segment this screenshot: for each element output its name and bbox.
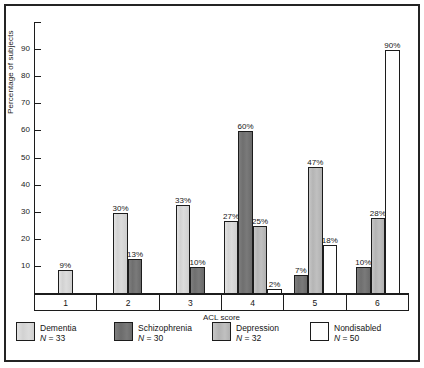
bar-value-label: 33% — [175, 196, 191, 205]
legend-text-dementia: DementiaN = 33 — [40, 322, 76, 343]
legend-swatch-dementia — [16, 322, 35, 341]
y-tick-40 — [34, 185, 41, 186]
bar-schizophrenia-cat-5: 7% — [294, 275, 309, 294]
y-tick-20 — [34, 239, 41, 240]
legend-label-dementia: Dementia — [40, 323, 76, 333]
chart-figure: Percentage of subjects 10203040506070809… — [0, 0, 424, 368]
bar-dementia-cat-2: 30% — [113, 213, 128, 294]
y-tick-50 — [34, 158, 41, 159]
bar-dementia-cat-3: 33% — [176, 205, 191, 294]
bar-schizophrenia-cat-2: 13% — [128, 259, 143, 294]
x-axis-category-row: 123456 — [34, 294, 409, 311]
y-tick-label-20: 20 — [12, 235, 30, 243]
y-axis-top-cap — [34, 22, 41, 23]
bar-value-label: 7% — [295, 266, 307, 275]
legend-label-depression: Depression — [236, 323, 279, 333]
legend-swatch-depression — [212, 322, 231, 341]
y-tick-label-10: 10 — [12, 262, 30, 270]
bar-value-label: 10% — [189, 258, 205, 267]
bar-value-label: 13% — [127, 250, 143, 259]
x-category-2: 2 — [97, 295, 159, 310]
legend-text-schizophrenia: SchizophreniaN = 30 — [138, 322, 192, 343]
legend-n-dementia: N = 33 — [40, 333, 76, 343]
bar-dementia-cat-1: 9% — [58, 270, 73, 294]
bar-schizophrenia-cat-3: 10% — [190, 267, 205, 294]
legend-text-nondisabled: NondisabledN = 50 — [334, 322, 381, 343]
legend-label-schizophrenia: Schizophrenia — [138, 323, 192, 333]
bar-value-label: 47% — [307, 158, 323, 167]
bar-value-label: 30% — [112, 204, 128, 213]
legend-n-depression: N = 32 — [236, 333, 279, 343]
bar-value-label: 18% — [322, 236, 338, 245]
legend-item-dementia: DementiaN = 33 — [16, 322, 114, 352]
legend-item-nondisabled: NondisabledN = 50 — [310, 322, 408, 352]
bar-dementia-cat-4: 27% — [224, 221, 239, 294]
y-tick-label-30: 30 — [12, 208, 30, 216]
bar-value-label: 10% — [355, 258, 371, 267]
y-tick-90 — [34, 49, 41, 50]
y-tick-label-40: 40 — [12, 181, 30, 189]
bar-value-label: 9% — [59, 261, 71, 270]
bar-value-label: 60% — [237, 122, 253, 131]
bar-schizophrenia-cat-4: 60% — [238, 131, 253, 294]
legend-n-nondisabled: N = 50 — [334, 333, 381, 343]
y-tick-80 — [34, 76, 41, 77]
bar-value-label: 28% — [370, 209, 386, 218]
legend-swatch-schizophrenia — [114, 322, 133, 341]
legend-label-nondisabled: Nondisabled — [334, 323, 381, 333]
x-category-5: 5 — [284, 295, 346, 310]
bar-depression-cat-4: 25% — [253, 226, 268, 294]
y-tick-label-90: 90 — [12, 45, 30, 53]
legend-item-schizophrenia: SchizophreniaN = 30 — [114, 322, 212, 352]
bar-value-label: 90% — [384, 41, 400, 50]
y-tick-30 — [34, 212, 41, 213]
legend-text-depression: DepressionN = 32 — [236, 322, 279, 343]
bar-nondisabled-cat-5: 18% — [323, 245, 338, 294]
y-tick-label-70: 70 — [12, 99, 30, 107]
x-category-1: 1 — [35, 295, 97, 310]
y-tick-label-80: 80 — [12, 72, 30, 80]
bar-value-label: 27% — [223, 212, 239, 221]
legend-item-depression: DepressionN = 32 — [212, 322, 310, 352]
y-tick-label-50: 50 — [12, 154, 30, 162]
x-category-4: 4 — [222, 295, 284, 310]
bar-depression-cat-5: 47% — [308, 167, 323, 294]
bar-depression-cat-6: 28% — [371, 218, 386, 294]
bar-schizophrenia-cat-6: 10% — [356, 267, 371, 294]
x-category-6: 6 — [347, 295, 408, 310]
x-category-3: 3 — [160, 295, 222, 310]
bar-value-label: 25% — [252, 217, 268, 226]
x-axis-title: ACL score — [34, 313, 409, 322]
legend-n-schizophrenia: N = 30 — [138, 333, 192, 343]
bar-nondisabled-cat-6: 90% — [385, 50, 400, 294]
legend-swatch-nondisabled — [310, 322, 329, 341]
bar-value-label: 2% — [269, 280, 281, 289]
plot-area: Percentage of subjects 10203040506070809… — [34, 22, 409, 294]
y-tick-label-60: 60 — [12, 126, 30, 134]
y-tick-70 — [34, 103, 41, 104]
y-tick-60 — [34, 130, 41, 131]
chart-legend: DementiaN = 33SchizophreniaN = 30Depress… — [16, 322, 408, 352]
y-tick-10 — [34, 266, 41, 267]
